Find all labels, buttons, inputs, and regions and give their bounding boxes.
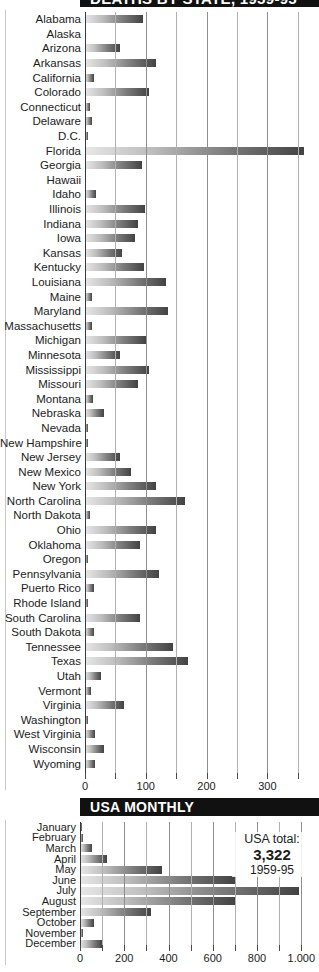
bar-track xyxy=(85,129,319,144)
category-label: Arkansas xyxy=(0,57,85,69)
bar-track xyxy=(85,41,319,56)
value-bar xyxy=(85,249,122,257)
category-label: New Hampshire xyxy=(0,437,85,449)
category-label: May xyxy=(0,864,80,875)
chart-row: Tennessee xyxy=(0,640,319,655)
category-label: North Carolina xyxy=(0,495,85,507)
category-label: Michigan xyxy=(0,334,85,346)
tick-label: 0 xyxy=(82,780,88,792)
tick-mark xyxy=(235,945,236,951)
bar-track xyxy=(85,640,319,655)
value-bar xyxy=(85,88,149,96)
tick-mark xyxy=(85,773,86,779)
chart-row: Florida xyxy=(0,143,319,158)
chart-row: Utah xyxy=(0,669,319,684)
category-label: December xyxy=(0,938,80,949)
bar-track xyxy=(85,567,319,582)
bar-track xyxy=(85,450,319,465)
value-bar xyxy=(85,307,168,315)
chart-row: Virginia xyxy=(0,698,319,713)
value-bar xyxy=(85,657,188,665)
usa-total-callout: USA total: 3,322 1959-95 xyxy=(232,832,312,877)
value-bar xyxy=(85,439,88,447)
bar-track xyxy=(85,333,319,348)
bar-track xyxy=(85,216,319,231)
value-bar xyxy=(85,424,88,432)
category-label: Illinois xyxy=(0,203,85,215)
tick-label: 100 xyxy=(137,780,155,792)
bar-track xyxy=(85,625,319,640)
category-label: Delaware xyxy=(0,115,85,127)
chart-row: Louisiana xyxy=(0,275,319,290)
value-bar xyxy=(80,823,82,831)
monthly-section-title: USA MONTHLY xyxy=(80,798,319,816)
value-bar xyxy=(85,701,124,709)
category-label: September xyxy=(0,907,80,918)
bar-track xyxy=(80,939,319,950)
chart-row: Pennsylvania xyxy=(0,567,319,582)
chart-row: Minnesota xyxy=(0,348,319,363)
category-label: Massachusetts xyxy=(0,320,85,332)
category-label: Kansas xyxy=(0,247,85,259)
category-label: Tennessee xyxy=(0,641,85,653)
value-bar xyxy=(85,584,94,592)
value-bar xyxy=(85,74,94,82)
chart-row: Georgia xyxy=(0,158,319,173)
chart-row: October xyxy=(0,917,319,928)
value-bar xyxy=(85,541,140,549)
states-row-list: AlabamaAlaskaArizonaArkansasCaliforniaCo… xyxy=(0,12,319,774)
bar-track xyxy=(85,187,319,202)
value-bar xyxy=(85,59,156,67)
value-bar xyxy=(85,161,142,169)
tick-mark xyxy=(169,945,170,951)
value-bar xyxy=(85,643,173,651)
chart-row: Arkansas xyxy=(0,56,319,71)
tick-mark xyxy=(176,773,177,779)
chart-row: Nebraska xyxy=(0,406,319,421)
chart-row: November xyxy=(0,928,319,939)
bar-track xyxy=(85,669,319,684)
chart-row: New York xyxy=(0,479,319,494)
category-label: Vermont xyxy=(0,685,85,697)
chart-row: Colorado xyxy=(0,85,319,100)
category-label: February xyxy=(0,832,80,843)
bar-track xyxy=(85,610,319,625)
category-label: Maryland xyxy=(0,305,85,317)
chart-row: New Mexico xyxy=(0,464,319,479)
category-label: Puerto Rico xyxy=(0,582,85,594)
bar-track xyxy=(85,143,319,158)
tick-mark xyxy=(237,773,238,779)
category-label: Minnesota xyxy=(0,349,85,361)
chart-row: Mississippi xyxy=(0,362,319,377)
chart-row: North Carolina xyxy=(0,494,319,509)
tick-label: 1.000 xyxy=(288,952,316,964)
value-bar xyxy=(85,147,304,155)
bar-track xyxy=(85,318,319,333)
value-bar xyxy=(80,876,235,884)
chart-row: Missouri xyxy=(0,377,319,392)
bar-track xyxy=(85,479,319,494)
total-value: 3,322 xyxy=(232,846,312,863)
bar-track xyxy=(85,391,319,406)
bar-track xyxy=(85,12,319,27)
chart-row: Illinois xyxy=(0,202,319,217)
category-label: Missouri xyxy=(0,378,85,390)
bar-track xyxy=(85,202,319,217)
chart-row: Nevada xyxy=(0,421,319,436)
bar-track xyxy=(85,231,319,246)
value-bar xyxy=(85,497,185,505)
value-bar xyxy=(85,730,95,738)
category-label: Texas xyxy=(0,655,85,667)
value-bar xyxy=(85,132,88,140)
bar-track xyxy=(80,928,319,939)
chart-row: Wyoming xyxy=(0,756,319,771)
chart-row: Rhode Island xyxy=(0,596,319,611)
tick-label: 200 xyxy=(197,780,215,792)
bar-track xyxy=(85,362,319,377)
value-bar xyxy=(85,716,88,724)
bar-track xyxy=(85,100,319,115)
category-label: Pennsylvania xyxy=(0,568,85,580)
bar-track xyxy=(80,896,319,907)
tick-mark xyxy=(257,945,258,951)
total-period: 1959-95 xyxy=(232,863,312,877)
